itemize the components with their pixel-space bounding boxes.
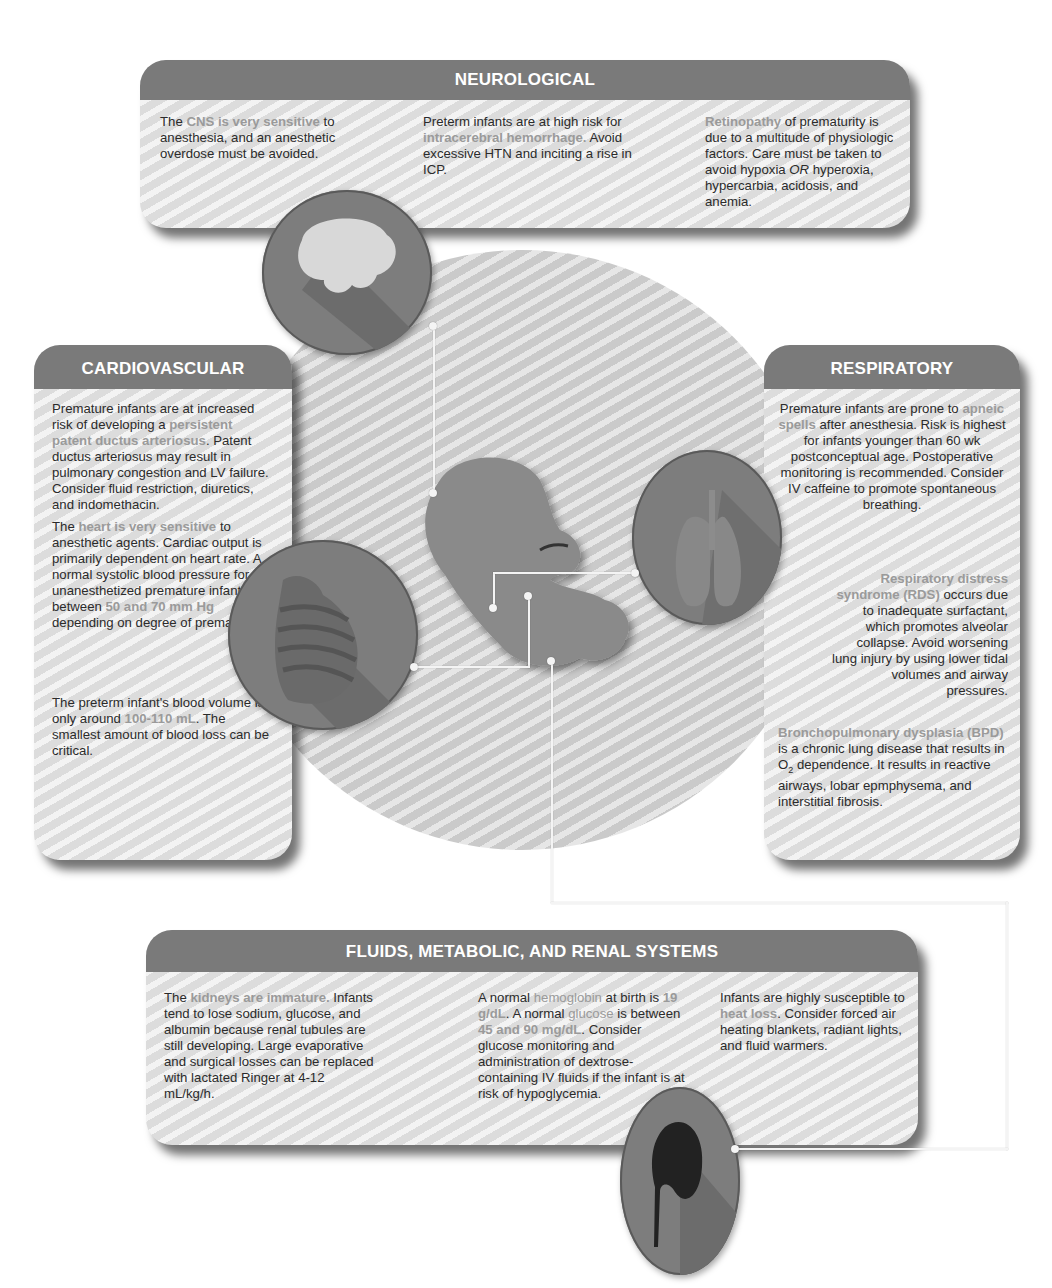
neurological-text-2: Preterm infants are at high risk for int… — [423, 114, 638, 178]
fetus-figure — [400, 440, 660, 680]
connector-dot — [410, 663, 418, 671]
kidney-icon — [620, 1087, 740, 1275]
fluids-title: FLUIDS, METABOLIC, AND RENAL SYSTEMS — [146, 930, 918, 972]
respiratory-text-2: Respiratory distress syndrome (RDS) occu… — [828, 571, 1008, 699]
respiratory-title: RESPIRATORY — [764, 345, 1020, 389]
neurological-panel: NEUROLOGICAL The CNS is very sensitive t… — [140, 60, 910, 228]
neurological-text-3: Retinopathy of prematurity is due to a m… — [705, 114, 895, 210]
connector-dot — [524, 592, 532, 600]
brain-icon — [262, 190, 432, 355]
lungs-icon — [632, 450, 782, 625]
connector-dot — [429, 322, 437, 330]
connector-dot — [547, 657, 555, 665]
connector-brain — [433, 326, 435, 493]
connector-dot — [731, 1145, 739, 1153]
connector-dot — [489, 604, 497, 612]
connector-kidney — [735, 1148, 1008, 1150]
heart-icon — [228, 540, 418, 730]
cardiovascular-text-1: Premature infants are at increased risk … — [52, 401, 274, 513]
connector-lungs — [493, 572, 635, 574]
connector-heart — [414, 666, 530, 668]
respiratory-text-1: Premature infants are prone to apneic sp… — [776, 401, 1008, 513]
connector-dot — [631, 569, 639, 577]
respiratory-panel: RESPIRATORY Premature infants are prone … — [764, 345, 1020, 860]
neurological-text-1: The CNS is very sensitive to anesthesia,… — [160, 114, 380, 162]
cardiovascular-title: CARDIOVASCULAR — [34, 345, 292, 389]
connector-heart — [528, 596, 530, 668]
fluids-text-3: Infants are highly susceptible to heat l… — [720, 990, 910, 1054]
connector-dot — [429, 489, 437, 497]
fluids-text-2: A normal hemoglobin at birth is 19 g/dL.… — [478, 990, 688, 1102]
respiratory-text-3: Bronchopulmonary dysplasia (BPD) is a ch… — [778, 725, 1008, 810]
neurological-title: NEUROLOGICAL — [140, 60, 910, 100]
connector-kidney — [1006, 902, 1008, 1150]
connector-lungs — [493, 572, 495, 607]
connector-kidney — [551, 902, 1008, 904]
fluids-text-1: The kidneys are immature. Infants tend t… — [164, 990, 374, 1102]
fluids-panel: FLUIDS, METABOLIC, AND RENAL SYSTEMS The… — [146, 930, 918, 1145]
connector-kidney — [551, 661, 553, 903]
